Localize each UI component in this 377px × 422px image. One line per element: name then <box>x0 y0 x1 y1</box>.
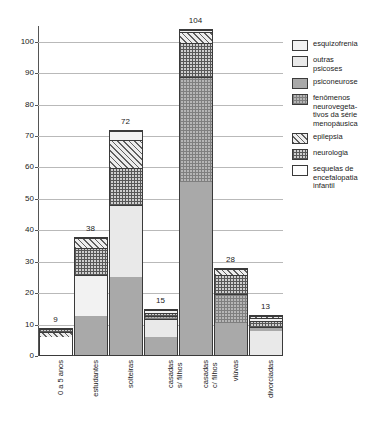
legend-label-line: infantil <box>313 182 358 191</box>
bar-segment-esquizofrenia <box>110 131 142 140</box>
legend-item-fenomenos[interactable]: fenômenosneurovegeta-tivos da sériemenop… <box>292 94 377 128</box>
legend-swatch-sequelas <box>292 165 308 176</box>
bar-estudantes[interactable] <box>74 237 108 356</box>
plot-area: 0102030405060708090100 93872151042813 <box>38 26 283 356</box>
x-axis-label: casadass/ filhos <box>166 360 184 388</box>
y-tick-label: 30 <box>25 258 34 266</box>
x-axis-label: casadasc/ filhos <box>201 360 219 388</box>
legend-swatch-neurologia <box>292 149 308 160</box>
bar-total-label: 104 <box>189 17 202 25</box>
bar-segment-fenomenos <box>180 77 212 182</box>
x-axis-label-line: solteiras <box>126 360 135 388</box>
bar-segment-neurologia <box>110 168 142 205</box>
legend-label-fenomenos: fenômenosneurovegeta-tivos da sériemenop… <box>313 94 358 128</box>
legend-label-line: psicoses <box>313 65 342 74</box>
bar-segment-neurologia <box>75 248 107 274</box>
y-tick-label: 90 <box>25 69 34 77</box>
bar-segment-outras <box>250 331 282 355</box>
x-axis-label: solteiras <box>126 360 135 388</box>
bar-segment-sequelas <box>40 337 72 355</box>
bar-segment-esquizofrenia <box>75 275 107 317</box>
y-tick-label: 80 <box>25 101 34 109</box>
y-tick-label: 70 <box>25 132 34 140</box>
bar-vi-vas[interactable] <box>214 268 248 356</box>
x-axis-label: estudantes <box>91 360 100 397</box>
bar-total-label: 13 <box>261 303 270 311</box>
y-tick-label: 20 <box>25 289 34 297</box>
bar-segment-neurologia <box>215 275 247 293</box>
x-axis-label-line: divorciadas <box>266 360 275 398</box>
legend-item-neurologia[interactable]: neurologia <box>292 149 377 160</box>
bar-segment-psiconeurose <box>110 277 142 355</box>
chart-legend: esquizofreniaoutraspsicosespsiconeurosef… <box>292 40 377 196</box>
legend-item-outras[interactable]: outraspsicoses <box>292 56 377 73</box>
bar-segment-psiconeurose <box>75 316 107 355</box>
y-tick-label: 50 <box>25 195 34 203</box>
y-tick-label: 100 <box>21 38 34 46</box>
bar-solteiras[interactable] <box>109 130 143 356</box>
bar-total-label: 72 <box>121 118 130 126</box>
legend-label-line: neurologia <box>313 149 348 158</box>
x-axis-label-line: s/ filhos <box>175 360 184 388</box>
bar-segment-psiconeurose <box>180 182 212 355</box>
legend-label-outras: outraspsicoses <box>313 56 342 73</box>
legend-label-epilepsia: epilepsia <box>313 133 343 142</box>
x-axis-label-line: casadas <box>166 360 175 388</box>
legend-label-neurologia: neurologia <box>313 149 348 158</box>
legend-label-line: psiconeurose <box>313 78 358 87</box>
bar-divorciadas[interactable] <box>249 315 283 356</box>
bar-0-a-5-anos[interactable] <box>39 328 73 356</box>
y-tick-label: 0 <box>30 352 34 360</box>
x-axis-label-line: c/ filhos <box>210 360 219 388</box>
bar-segment-psiconeurose <box>215 323 247 355</box>
bar-casadas-c-filhos[interactable] <box>179 29 213 356</box>
legend-swatch-esquizofrenia <box>292 40 308 51</box>
legend-label-psiconeurose: psiconeurose <box>313 78 358 87</box>
bar-segment-neurologia <box>180 43 212 77</box>
bars-group: 93872151042813 <box>38 26 283 356</box>
bar-segment-outras <box>110 205 142 277</box>
y-tick-label: 60 <box>25 163 34 171</box>
legend-label-line: esquizofrenia <box>313 40 358 49</box>
legend-swatch-outras <box>292 56 308 67</box>
y-tick-label: 40 <box>25 226 34 234</box>
legend-label-esquizofrenia: esquizofrenia <box>313 40 358 49</box>
x-axis-label: divorciadas <box>266 360 275 398</box>
legend-item-esquizofrenia[interactable]: esquizofrenia <box>292 40 377 51</box>
x-axis-label-line: viúvas <box>231 360 240 381</box>
legend-swatch-psiconeurose <box>292 78 308 89</box>
bar-total-label: 15 <box>156 297 165 305</box>
x-axis-label: viúvas <box>231 360 240 381</box>
x-axis-label: 0 a 5 anos <box>56 360 65 395</box>
bar-casadas-s-filhos[interactable] <box>144 309 178 356</box>
bar-total-label: 9 <box>53 316 57 324</box>
legend-swatch-epilepsia <box>292 133 308 144</box>
x-axis-label-line: estudantes <box>91 360 100 397</box>
x-axis-labels: 0 a 5 anosestudantessolteirascasadass/ f… <box>38 360 283 422</box>
legend-swatch-fenomenos <box>292 94 308 105</box>
x-axis-label-line: 0 a 5 anos <box>56 360 65 395</box>
bar-segment-fenomenos <box>215 294 247 323</box>
legend-item-epilepsia[interactable]: epilepsia <box>292 133 377 144</box>
y-tick-label: 10 <box>25 321 34 329</box>
bar-segment-psiconeurose <box>145 337 177 355</box>
bar-segment-outras <box>145 319 177 337</box>
bar-segment-epilepsia <box>110 140 142 168</box>
legend-label-sequelas: sequelas deencefalopatiainfantil <box>313 165 358 191</box>
bar-segment-epilepsia <box>180 32 212 43</box>
bar-total-label: 28 <box>226 256 235 264</box>
bar-segment-epilepsia <box>75 238 107 249</box>
legend-label-line: epilepsia <box>313 133 343 142</box>
legend-item-psiconeurose[interactable]: psiconeurose <box>292 78 377 89</box>
stacked-bar-chart: 0102030405060708090100 93872151042813 0 … <box>0 0 377 422</box>
y-tick-mark <box>35 356 38 357</box>
bar-total-label: 38 <box>86 225 95 233</box>
x-axis-label-line: casadas <box>201 360 210 388</box>
legend-label-line: menopáusica <box>313 120 358 129</box>
legend-item-sequelas[interactable]: sequelas deencefalopatiainfantil <box>292 165 377 191</box>
